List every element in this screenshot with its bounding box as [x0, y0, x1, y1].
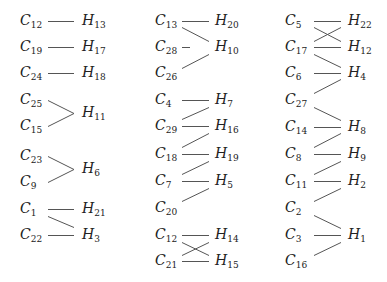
c-node-17: C17	[285, 39, 307, 58]
h-node-21: H21	[82, 201, 106, 220]
edge	[182, 134, 209, 148]
c-node-20: C20	[155, 200, 177, 219]
edge	[48, 217, 74, 228]
h-node-6: H6	[82, 161, 100, 180]
c-node-29: C29	[155, 118, 177, 137]
edge	[314, 55, 341, 68]
edge	[314, 189, 341, 202]
c-node-4: C4	[155, 92, 171, 111]
h-node-12: H12	[348, 39, 372, 58]
c-node-1: C1	[20, 201, 36, 220]
h-node-4: H4	[348, 65, 366, 84]
edge	[314, 80, 341, 94]
h-node-5: H5	[215, 173, 233, 192]
edge	[182, 162, 209, 175]
c-node-13: C13	[155, 13, 177, 32]
c-node-21: C21	[155, 253, 177, 272]
edge	[314, 216, 341, 229]
c-node-26: C26	[155, 65, 177, 84]
h-node-7: H7	[215, 92, 233, 111]
h-node-16: H16	[215, 118, 239, 137]
h-node-15: H15	[215, 253, 239, 272]
c-node-14: C14	[285, 119, 307, 138]
edge	[48, 170, 74, 183]
c-node-6: C6	[285, 65, 301, 84]
h-node-13: H13	[82, 13, 106, 32]
h-node-14: H14	[215, 227, 239, 246]
h-node-20: H20	[215, 13, 239, 32]
c-node-27: C27	[285, 92, 307, 111]
c-node-25: C25	[20, 92, 42, 111]
c-node-12: C12	[20, 13, 42, 32]
edge	[314, 134, 341, 148]
matching-edges	[0, 0, 387, 282]
edge	[182, 108, 209, 120]
h-node-10: H10	[215, 39, 239, 58]
c-node-18: C18	[155, 146, 177, 165]
c-node-15: C15	[20, 118, 42, 137]
h-node-19: H19	[215, 146, 239, 165]
edge	[314, 162, 341, 175]
h-node-11: H11	[82, 105, 106, 124]
edge	[182, 28, 209, 42]
c-node-19: C19	[20, 39, 42, 58]
c-node-12: C12	[155, 227, 177, 246]
c-node-24: C24	[20, 65, 42, 84]
c-node-5: C5	[285, 13, 301, 32]
c-node-9: C9	[20, 174, 36, 193]
c-node-11: C11	[285, 173, 307, 192]
h-node-2: H2	[348, 173, 366, 192]
c-node-16: C16	[285, 253, 307, 272]
h-node-22: H22	[348, 13, 372, 32]
edge	[48, 114, 74, 127]
h-node-17: H17	[82, 39, 106, 58]
edge	[48, 101, 74, 114]
c-node-28: C28	[155, 39, 177, 58]
h-node-18: H18	[82, 65, 106, 84]
c-node-22: C22	[20, 227, 42, 246]
edge	[48, 157, 74, 170]
edge	[314, 243, 341, 256]
h-node-9: H9	[348, 146, 366, 165]
h-node-3: H3	[82, 227, 100, 246]
h-node-8: H8	[348, 119, 366, 138]
edge	[314, 108, 341, 121]
edge	[182, 189, 209, 202]
h-node-1: H1	[348, 227, 366, 246]
c-node-8: C8	[285, 146, 301, 165]
c-node-3: C3	[285, 227, 301, 246]
edge	[182, 55, 209, 69]
c-node-23: C23	[20, 148, 42, 167]
c-node-7: C7	[155, 173, 171, 192]
c-node-2: C2	[285, 200, 301, 219]
